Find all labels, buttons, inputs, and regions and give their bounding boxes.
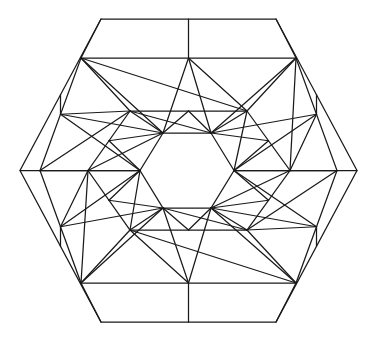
figure-root	[0, 0, 376, 342]
hexagon-tessellation-figure	[0, 0, 376, 342]
